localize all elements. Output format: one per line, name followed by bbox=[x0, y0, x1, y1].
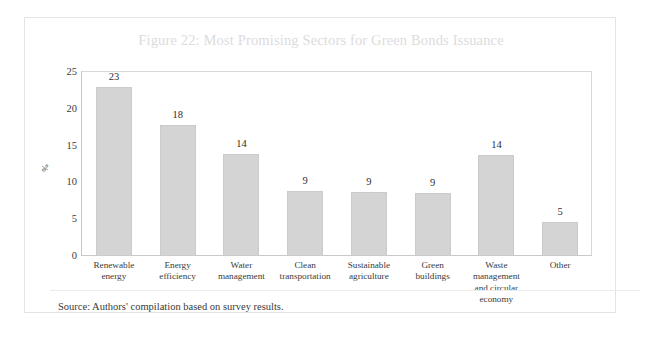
x-category-line: agriculture bbox=[349, 271, 389, 281]
x-category-line: efficiency bbox=[159, 271, 196, 281]
y-tick-label: 10 bbox=[55, 176, 77, 187]
bar-value-label: 9 bbox=[339, 176, 399, 187]
y-tick-label: 0 bbox=[55, 250, 77, 261]
x-category-line: Waste bbox=[485, 260, 507, 270]
bar bbox=[96, 87, 132, 256]
bar bbox=[223, 154, 259, 256]
bar-value-label: 5 bbox=[530, 206, 590, 217]
bar-value-label: 14 bbox=[211, 138, 271, 149]
bar bbox=[415, 193, 451, 256]
x-category-line: Water bbox=[231, 260, 253, 270]
bar bbox=[478, 155, 514, 256]
x-category-line: Renewable bbox=[93, 260, 134, 270]
x-category-line: management bbox=[473, 271, 520, 281]
y-axis-label: % bbox=[40, 156, 50, 180]
bar bbox=[542, 222, 578, 256]
x-category-line: economy bbox=[480, 294, 514, 304]
x-category-line: management bbox=[218, 271, 265, 281]
bar-value-label: 14 bbox=[466, 139, 526, 150]
x-category-line: and circular bbox=[475, 283, 519, 293]
x-category-line: Other bbox=[550, 260, 571, 270]
bar-value-label: 18 bbox=[148, 109, 208, 120]
source-note: Source: Authors' compilation based on su… bbox=[58, 301, 284, 312]
bar-value-label: 9 bbox=[275, 175, 335, 186]
x-category-label: Other bbox=[523, 260, 597, 271]
bar-value-label: 23 bbox=[84, 71, 144, 82]
y-tick-label: 15 bbox=[55, 139, 77, 150]
x-category-line: energy bbox=[101, 271, 126, 281]
x-category-line: Clean bbox=[294, 260, 315, 270]
x-category-line: buildings bbox=[416, 271, 450, 281]
figure-container: Figure 22: Most Promising Sectors for Gr… bbox=[24, 17, 616, 313]
x-category-line: transportation bbox=[280, 271, 331, 281]
y-tick-label: 5 bbox=[55, 213, 77, 224]
figure-title: Figure 22: Most Promising Sectors for Gr… bbox=[25, 32, 617, 49]
bar-value-label: 9 bbox=[403, 177, 463, 188]
x-category-line: Green bbox=[421, 260, 443, 270]
bar bbox=[160, 125, 196, 256]
bar bbox=[287, 191, 323, 256]
x-category-line: Energy bbox=[164, 260, 190, 270]
source-divider bbox=[50, 290, 640, 291]
y-tick-label: 25 bbox=[55, 66, 77, 77]
plot-area bbox=[82, 71, 592, 255]
bar bbox=[351, 192, 387, 256]
bar-series bbox=[82, 72, 592, 256]
x-category-line: Sustainable bbox=[348, 260, 390, 270]
y-tick-label: 20 bbox=[55, 102, 77, 113]
